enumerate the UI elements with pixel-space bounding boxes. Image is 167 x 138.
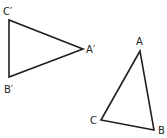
label-b: B <box>158 125 165 136</box>
label-c: C <box>90 115 97 126</box>
triangle-abc <box>101 51 154 130</box>
diagram-canvas: C′ B′ A′ A C B <box>0 0 167 138</box>
label-c-prime: C′ <box>3 6 13 17</box>
label-a-prime: A′ <box>86 44 96 55</box>
triangle-a-prime-b-prime-c-prime <box>9 20 83 77</box>
label-b-prime: B′ <box>4 84 14 95</box>
label-a: A <box>136 36 143 47</box>
